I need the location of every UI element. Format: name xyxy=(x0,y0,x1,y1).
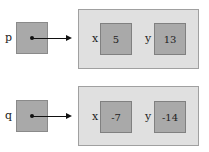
field-value-y: -14 xyxy=(162,112,178,123)
variable-label-p: p xyxy=(5,32,12,44)
field-value-x: -7 xyxy=(111,112,121,123)
reference-row-q: q x -7 y -14 xyxy=(0,77,209,152)
field-box-x: -7 xyxy=(100,101,132,133)
field-label-x: x xyxy=(92,111,98,123)
variable-label-q: q xyxy=(5,110,12,122)
field-label-x: x xyxy=(92,33,98,45)
object-frame-p: x 5 y 13 xyxy=(78,9,199,69)
pointer-arrow-icon xyxy=(32,38,68,39)
field-box-y: -14 xyxy=(154,101,186,133)
field-box-y: 13 xyxy=(154,23,186,55)
field-box-x: 5 xyxy=(100,23,132,55)
arrowhead-icon xyxy=(66,113,72,119)
pointer-arrow-icon xyxy=(32,116,68,117)
field-label-y: y xyxy=(145,111,151,123)
field-label-y: y xyxy=(145,33,151,45)
object-frame-q: x -7 y -14 xyxy=(78,86,199,146)
field-value-y: 13 xyxy=(164,34,177,45)
arrowhead-icon xyxy=(66,35,72,41)
reference-row-p: p x 5 y 13 xyxy=(0,0,209,76)
field-value-x: 5 xyxy=(113,34,119,45)
